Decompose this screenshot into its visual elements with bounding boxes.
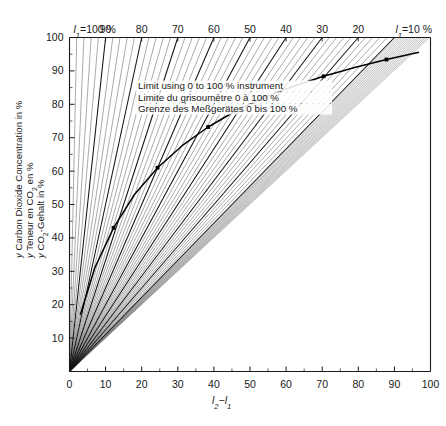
x-tick-label: 90 <box>389 378 401 390</box>
y-tick-label: 100 <box>46 31 64 43</box>
top-axis-label-right: l1=10 % <box>395 23 432 40</box>
annotation-line-de: Grenze des Meßgerätes 0 bis 100 % <box>138 103 298 114</box>
y-tick-label: 40 <box>52 231 64 243</box>
nomogram-figure: 1020304050607080901000102030405060708090… <box>0 0 446 426</box>
y-tick-label: 70 <box>52 131 64 143</box>
x-tick-label: 20 <box>136 378 148 390</box>
top-tick-label: 40 <box>280 23 292 35</box>
top-tick-label: 60 <box>208 23 220 35</box>
top-tick-label: 20 <box>352 23 364 35</box>
x-tick-label: 0 <box>67 378 73 390</box>
x-tick-label: 60 <box>280 378 292 390</box>
x-tick-label: 40 <box>208 378 220 390</box>
annotation-line-fr: Limite du grisoumètre 0 à 100 % <box>138 92 279 103</box>
top-tick-label: 50 <box>244 23 256 35</box>
x-tick-label: 30 <box>172 378 184 390</box>
annotation-line-en: Limit using 0 to 100 % instrument <box>138 80 283 91</box>
x-tick-label: 70 <box>316 378 328 390</box>
curve-marker <box>322 74 326 78</box>
x-tick-label: 10 <box>100 378 112 390</box>
y-tick-label: 80 <box>52 98 64 110</box>
y-tick-label: 20 <box>52 298 64 310</box>
curve-marker <box>385 58 389 62</box>
y-tick-label: 90 <box>52 64 64 76</box>
top-tick-label: 80 <box>136 23 148 35</box>
top-tick-label: 70 <box>172 23 184 35</box>
curve-marker <box>156 166 160 170</box>
top-axis-label-left: l1=100 % <box>74 23 116 40</box>
y-tick-label: 30 <box>52 265 64 277</box>
x-tick-label: 80 <box>352 378 364 390</box>
y-tick-label: 60 <box>52 165 64 177</box>
top-tick-label: 30 <box>316 23 328 35</box>
x-tick-label: 50 <box>244 378 256 390</box>
x-tick-label: 100 <box>422 378 440 390</box>
y-axis-title-line: y CO2-Gehalt in % <box>35 179 49 259</box>
iso-line-bold <box>70 38 106 372</box>
curve-marker <box>112 226 116 230</box>
x-axis-title: l2−l1 <box>212 394 231 411</box>
y-tick-label: 50 <box>52 198 64 210</box>
y-axis-title-line: y Carbon Dioxide Concentration in % <box>13 100 24 259</box>
nomogram-canvas: 1020304050607080901000102030405060708090… <box>0 0 446 426</box>
y-tick-label: 10 <box>52 332 64 344</box>
curve-marker <box>206 125 210 129</box>
